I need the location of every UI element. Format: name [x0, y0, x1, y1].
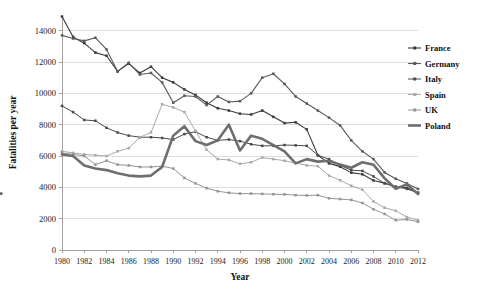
legend-marker — [413, 78, 416, 81]
legend-marker — [413, 109, 416, 112]
data-point — [372, 208, 375, 211]
data-point — [406, 188, 409, 191]
x-tick-label: 2010 — [388, 257, 404, 266]
data-point — [350, 199, 353, 202]
legend-item-italy[interactable]: Italy — [408, 74, 443, 84]
data-point — [328, 162, 331, 165]
data-point — [261, 109, 264, 112]
data-point — [328, 197, 331, 200]
data-point — [239, 140, 242, 143]
data-point — [261, 145, 264, 148]
data-point — [294, 144, 297, 147]
data-point — [228, 101, 231, 104]
data-point — [94, 36, 97, 39]
data-point — [350, 171, 353, 174]
y-tick-labels-group: 02000400060008000100001200014000 — [35, 26, 56, 255]
data-point — [328, 116, 331, 119]
data-point — [383, 206, 386, 209]
data-point — [350, 185, 353, 188]
data-point — [250, 92, 253, 95]
x-tick-label: 1998 — [254, 257, 270, 266]
data-point — [105, 48, 108, 51]
y-tick-label: 2000 — [39, 214, 56, 224]
data-point — [183, 94, 186, 97]
data-point — [294, 194, 297, 197]
data-point — [395, 210, 398, 213]
data-point — [105, 155, 108, 158]
y-tick-label: 8000 — [39, 120, 56, 130]
series-line — [62, 125, 418, 194]
data-point — [239, 112, 242, 115]
data-point — [61, 34, 64, 37]
data-point — [83, 40, 86, 43]
data-point — [272, 116, 275, 119]
legend-item-germany[interactable]: Germany — [408, 59, 460, 69]
data-point — [150, 166, 153, 169]
x-tick-label: 1996 — [232, 257, 248, 266]
data-point — [250, 161, 253, 164]
data-point — [372, 200, 375, 203]
legend-label: France — [425, 43, 451, 53]
data-point — [105, 159, 108, 162]
y-tick-label: 12000 — [35, 57, 56, 67]
data-point — [339, 124, 342, 127]
data-point — [228, 192, 231, 195]
data-point — [139, 73, 142, 76]
x-tick-label: 2002 — [299, 257, 315, 266]
data-point — [372, 175, 375, 178]
data-point — [294, 121, 297, 124]
data-point — [350, 169, 353, 172]
data-point — [161, 137, 164, 140]
data-point — [128, 164, 131, 167]
data-point — [239, 192, 242, 195]
legend: FranceGermanyItalySpainUKPoland — [408, 43, 460, 131]
legend-label: Italy — [425, 74, 443, 84]
data-point — [94, 51, 97, 54]
data-point — [183, 133, 186, 136]
data-point — [372, 158, 375, 161]
data-point — [183, 88, 186, 91]
x-tick-label: 2008 — [366, 257, 382, 266]
x-tick-label: 1980 — [54, 257, 70, 266]
data-point — [417, 188, 420, 191]
x-tick-labels-group: 1980198219841986198819901992199419961998… — [54, 257, 426, 266]
data-point — [205, 148, 208, 151]
legend-item-poland[interactable]: Poland — [408, 121, 451, 131]
data-point — [217, 95, 220, 98]
data-point — [0, 192, 3, 195]
data-point — [272, 158, 275, 161]
data-point — [61, 15, 64, 18]
legend-label: Spain — [425, 90, 446, 100]
x-tick-label: 1986 — [121, 257, 137, 266]
data-point — [217, 158, 220, 161]
series-line — [62, 35, 418, 189]
data-point — [83, 42, 86, 45]
x-tick-label: 1990 — [165, 257, 181, 266]
data-point — [261, 193, 264, 196]
legend-item-uk[interactable]: UK — [408, 105, 438, 115]
line-chart: 02000400060008000100001200014000 1980198… — [0, 0, 484, 293]
data-point — [283, 83, 286, 86]
y-tick-label: 0 — [52, 245, 56, 255]
data-point — [161, 81, 164, 84]
data-point — [150, 65, 153, 68]
data-point — [250, 143, 253, 146]
data-point — [372, 179, 375, 182]
data-point — [150, 72, 153, 75]
legend-item-spain[interactable]: Spain — [408, 90, 446, 100]
data-point — [339, 198, 342, 201]
data-point — [272, 193, 275, 196]
data-point — [217, 107, 220, 110]
legend-item-france[interactable]: France — [408, 43, 451, 53]
data-point — [317, 194, 320, 197]
data-point — [261, 76, 264, 79]
data-point — [383, 182, 386, 185]
data-point — [150, 131, 153, 134]
data-point — [228, 138, 231, 141]
x-tick-label: 1994 — [210, 257, 226, 266]
data-point — [261, 156, 264, 159]
data-point — [161, 103, 164, 106]
data-point — [317, 165, 320, 168]
data-point — [205, 136, 208, 139]
y-tick-label: 10000 — [35, 88, 56, 98]
